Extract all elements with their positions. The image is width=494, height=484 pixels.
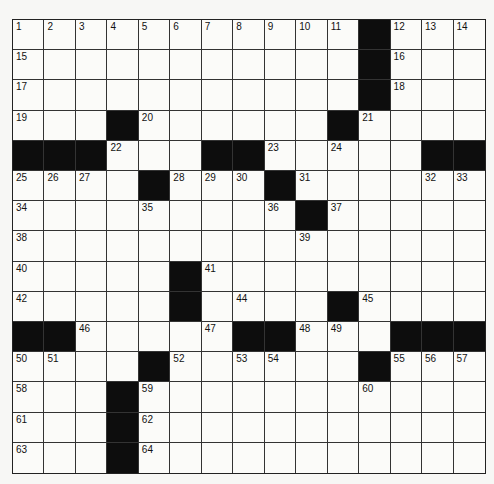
crossword-cell[interactable]: [107, 322, 138, 352]
crossword-cell[interactable]: 24: [328, 141, 359, 171]
crossword-cell[interactable]: 31: [296, 171, 327, 201]
crossword-cell[interactable]: 47: [202, 322, 233, 352]
crossword-cell[interactable]: [44, 262, 75, 292]
crossword-cell[interactable]: [107, 262, 138, 292]
crossword-cell[interactable]: 8: [233, 20, 264, 50]
crossword-cell[interactable]: 30: [233, 171, 264, 201]
crossword-cell[interactable]: [170, 111, 201, 141]
crossword-cell[interactable]: 12: [391, 20, 422, 50]
crossword-cell[interactable]: [107, 292, 138, 322]
crossword-cell[interactable]: [76, 80, 107, 110]
crossword-cell[interactable]: [422, 201, 453, 231]
crossword-cell[interactable]: 50: [13, 352, 44, 382]
crossword-cell[interactable]: 21: [359, 111, 390, 141]
crossword-cell[interactable]: [202, 352, 233, 382]
crossword-cell[interactable]: [202, 382, 233, 412]
crossword-cell[interactable]: [422, 111, 453, 141]
crossword-cell[interactable]: [454, 50, 485, 80]
crossword-cell[interactable]: [359, 262, 390, 292]
crossword-cell[interactable]: 55: [391, 352, 422, 382]
crossword-cell[interactable]: [170, 141, 201, 171]
crossword-cell[interactable]: [202, 413, 233, 443]
crossword-cell[interactable]: 51: [44, 352, 75, 382]
crossword-cell[interactable]: [107, 231, 138, 261]
crossword-cell[interactable]: 53: [233, 352, 264, 382]
crossword-cell[interactable]: 45: [359, 292, 390, 322]
crossword-cell[interactable]: [328, 262, 359, 292]
crossword-cell[interactable]: 25: [13, 171, 44, 201]
crossword-cell[interactable]: [139, 141, 170, 171]
crossword-cell[interactable]: 13: [422, 20, 453, 50]
crossword-cell[interactable]: [44, 443, 75, 473]
crossword-cell[interactable]: 23: [265, 141, 296, 171]
crossword-cell[interactable]: 7: [202, 20, 233, 50]
crossword-cell[interactable]: [233, 231, 264, 261]
crossword-cell[interactable]: [328, 382, 359, 412]
crossword-cell[interactable]: [359, 322, 390, 352]
crossword-cell[interactable]: 9: [265, 20, 296, 50]
crossword-cell[interactable]: 2: [44, 20, 75, 50]
crossword-cell[interactable]: [202, 50, 233, 80]
crossword-cell[interactable]: [44, 292, 75, 322]
crossword-cell[interactable]: 18: [391, 80, 422, 110]
crossword-cell[interactable]: [328, 413, 359, 443]
crossword-cell[interactable]: [139, 292, 170, 322]
crossword-cell[interactable]: [76, 382, 107, 412]
crossword-cell[interactable]: 39: [296, 231, 327, 261]
crossword-cell[interactable]: 56: [422, 352, 453, 382]
crossword-cell[interactable]: 64: [139, 443, 170, 473]
crossword-cell[interactable]: [233, 382, 264, 412]
crossword-cell[interactable]: [139, 262, 170, 292]
crossword-cell[interactable]: [296, 382, 327, 412]
crossword-cell[interactable]: [233, 80, 264, 110]
crossword-cell[interactable]: [76, 50, 107, 80]
crossword-cell[interactable]: [76, 231, 107, 261]
crossword-cell[interactable]: [170, 201, 201, 231]
crossword-cell[interactable]: [170, 50, 201, 80]
crossword-cell[interactable]: 14: [454, 20, 485, 50]
crossword-cell[interactable]: 58: [13, 382, 44, 412]
crossword-cell[interactable]: [107, 171, 138, 201]
crossword-cell[interactable]: [391, 443, 422, 473]
crossword-cell[interactable]: [422, 231, 453, 261]
crossword-cell[interactable]: [139, 50, 170, 80]
crossword-cell[interactable]: 35: [139, 201, 170, 231]
crossword-cell[interactable]: [76, 413, 107, 443]
crossword-cell[interactable]: [296, 50, 327, 80]
crossword-cell[interactable]: 60: [359, 382, 390, 412]
crossword-cell[interactable]: 37: [328, 201, 359, 231]
crossword-cell[interactable]: [391, 292, 422, 322]
crossword-cell[interactable]: [170, 382, 201, 412]
crossword-cell[interactable]: 54: [265, 352, 296, 382]
crossword-cell[interactable]: [328, 171, 359, 201]
crossword-cell[interactable]: 49: [328, 322, 359, 352]
crossword-cell[interactable]: 19: [13, 111, 44, 141]
crossword-cell[interactable]: [391, 231, 422, 261]
crossword-cell[interactable]: [233, 443, 264, 473]
crossword-cell[interactable]: [391, 141, 422, 171]
crossword-cell[interactable]: [44, 201, 75, 231]
crossword-cell[interactable]: [454, 443, 485, 473]
crossword-cell[interactable]: [422, 80, 453, 110]
crossword-cell[interactable]: 52: [170, 352, 201, 382]
crossword-cell[interactable]: 62: [139, 413, 170, 443]
crossword-cell[interactable]: [265, 231, 296, 261]
crossword-cell[interactable]: [139, 231, 170, 261]
crossword-cell[interactable]: 63: [13, 443, 44, 473]
crossword-cell[interactable]: [44, 382, 75, 412]
crossword-cell[interactable]: [76, 352, 107, 382]
crossword-cell[interactable]: 5: [139, 20, 170, 50]
crossword-cell[interactable]: 15: [13, 50, 44, 80]
crossword-cell[interactable]: [296, 111, 327, 141]
crossword-cell[interactable]: [233, 50, 264, 80]
crossword-cell[interactable]: [454, 201, 485, 231]
crossword-cell[interactable]: [233, 201, 264, 231]
crossword-cell[interactable]: [202, 80, 233, 110]
crossword-cell[interactable]: [76, 262, 107, 292]
crossword-cell[interactable]: 46: [76, 322, 107, 352]
crossword-cell[interactable]: [296, 292, 327, 322]
crossword-cell[interactable]: [296, 352, 327, 382]
crossword-cell[interactable]: [139, 80, 170, 110]
crossword-cell[interactable]: [44, 111, 75, 141]
crossword-cell[interactable]: [202, 231, 233, 261]
